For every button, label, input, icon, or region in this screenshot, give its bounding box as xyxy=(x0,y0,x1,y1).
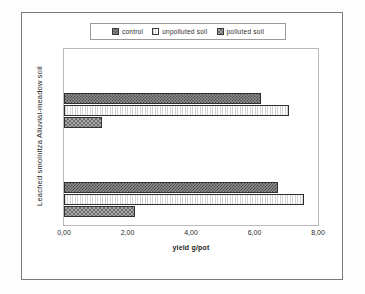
x-tick-label: 4,00 xyxy=(184,229,198,236)
legend-swatch-unpolluted-soil-icon xyxy=(152,28,159,35)
bar-control-Alluvial-meadow-soil xyxy=(64,93,261,104)
x-axis-ticks: 0,002,004,006,008,00 xyxy=(63,229,319,241)
legend-item-control: control xyxy=(112,28,143,35)
legend-item-polluted-soil: polluted soil xyxy=(217,28,265,35)
bars-container xyxy=(64,49,318,225)
bar-polluted-soil-Alluvial-meadow-soil xyxy=(64,117,102,128)
chart-page: control unpolluted soil polluted soil Le… xyxy=(0,0,365,294)
chart-card: control unpolluted soil polluted soil Le… xyxy=(21,12,343,280)
bar-unpolluted-soil-Alluvial-meadow-soil xyxy=(64,105,289,116)
chart-legend: control unpolluted soil polluted soil xyxy=(90,23,286,40)
bar-polluted-soil-Leached-smolnitza xyxy=(64,206,135,217)
x-tick-label: 8,00 xyxy=(311,229,325,236)
legend-swatch-control-icon xyxy=(112,28,119,35)
legend-label-control: control xyxy=(122,28,143,35)
y-axis-title: Leached smolnitza Alluvial-meadow soil xyxy=(32,43,46,229)
legend-item-unpolluted-soil: unpolluted soil xyxy=(152,28,207,35)
x-tick-label: 2,00 xyxy=(121,229,135,236)
legend-label-unpolluted-soil: unpolluted soil xyxy=(162,28,207,35)
legend-label-polluted-soil: polluted soil xyxy=(227,28,265,35)
plot-area xyxy=(63,48,319,226)
bar-unpolluted-soil-Leached-smolnitza xyxy=(64,194,304,205)
bar-control-Leached-smolnitza xyxy=(64,182,278,193)
x-tick-label: 6,00 xyxy=(248,229,262,236)
legend-swatch-polluted-soil-icon xyxy=(217,28,224,35)
x-tick-label: 0,00 xyxy=(57,229,71,236)
x-axis-title: yield g/pot xyxy=(63,244,319,251)
y-axis-title-text: Leached smolnitza Alluvial-meadow soil xyxy=(35,66,44,206)
